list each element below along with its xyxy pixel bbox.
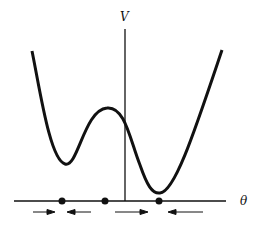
potential-curve <box>32 50 222 193</box>
equilibrium-dot-right <box>156 198 163 205</box>
v-axis-label: V <box>120 10 129 24</box>
potential-diagram <box>0 0 258 229</box>
theta-axis-label: θ <box>240 194 247 208</box>
equilibrium-dot-left <box>59 198 66 205</box>
equilibrium-dot-middle <box>102 198 109 205</box>
